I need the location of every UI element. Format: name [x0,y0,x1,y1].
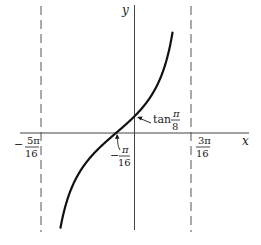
y-intercept-prefix: tan [153,113,171,126]
left-asymptote-sign: − [14,138,23,151]
y-intercept-arrowhead [137,117,143,121]
tangent-curve [61,33,173,228]
left-asymptote-label: − 5π 16 [14,135,40,159]
tangent-graph: y x − 5π 16 3π 16 − π 16 tan π 8 [0,0,261,245]
y-intercept-numerator: π [172,108,180,119]
y-intercept-denominator: 8 [172,121,178,132]
right-asymptote-numerator: 3π [198,135,211,146]
right-asymptote-denominator: 16 [196,148,209,159]
y-intercept-annotation: tan π 8 [137,108,180,132]
x-intercept-numerator: π [121,144,129,155]
left-asymptote-numerator: 5π [27,135,40,146]
right-asymptote-label: 3π 16 [196,135,211,159]
x-intercept-arrowhead [115,134,120,139]
x-intercept-denominator: 16 [118,157,131,168]
left-asymptote-denominator: 16 [25,148,38,159]
x-axis-label: x [242,134,249,148]
y-axis-label: y [121,3,129,17]
x-intercept-annotation: − π 16 [110,134,131,168]
